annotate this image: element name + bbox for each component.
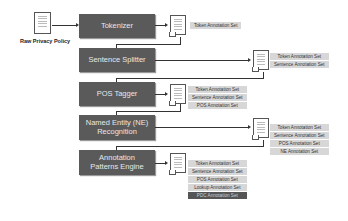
feedback-line [116,78,264,79]
connector [155,25,165,26]
pipeline-diagram: Raw Privacy Policy Tokenizer Token Annot… [0,0,348,221]
annotation-label: POS Annotation Set [188,176,247,183]
input-caption: Raw Privacy Policy [20,38,70,44]
output-document-icon [170,153,186,173]
annotation-label: Sentence Annotation Set [188,168,247,175]
stage-ne-recognition: Named Entity (NE) Recognition [79,115,155,140]
connector [155,60,248,61]
output-labels-sentence-splitter: Token Annotation Set Sentence Annotation… [270,53,329,68]
annotation-label: Token Annotation Set [188,86,247,93]
stage-sentence-splitter: Sentence Splitter [79,48,155,72]
feedback-line [263,140,264,147]
annotation-label: Token Annotation Set [190,22,241,29]
annotation-label: POS Annotation Set [188,102,247,109]
raw-policy-document-icon [34,12,51,34]
connector [155,127,248,128]
annotation-label: Sentence Annotation Set [270,61,329,68]
output-document-icon [170,15,186,35]
connector [155,94,165,95]
stage-annotation-patterns-engine: Annotation Patterns Engine [79,150,155,175]
feedback-line [116,44,180,45]
arrow-icon [248,58,251,62]
arrow-icon [165,92,168,96]
annotation-label: Lookup Annotation Set [188,184,247,191]
output-document-icon [253,50,269,70]
feedback-line [116,146,264,147]
annotation-label: POS Annotation Set [270,140,329,147]
output-labels-annotation-patterns: Token Annotation Set Sentence Annotation… [188,160,247,199]
feedback-line [180,104,181,112]
annotation-label: Sentence Annotation Set [188,94,247,101]
output-document-icon [253,118,269,138]
output-labels-pos-tagger: Token Annotation Set Sentence Annotation… [188,86,247,109]
stage-pos-tagger: POS Tagger [79,82,155,106]
feedback-line [263,72,264,79]
output-labels-tokenizer: Token Annotation Set [190,22,241,29]
annotation-label: Token Annotation Set [270,124,329,131]
annotation-label: Token Annotation Set [270,53,329,60]
annotation-label: Token Annotation Set [188,160,247,167]
feedback-line [180,37,181,45]
arrow-icon [248,125,251,129]
output-labels-ne-recognition: Token Annotation Set Sentence Annotation… [270,124,329,155]
input-connector [52,25,76,26]
arrow-icon [165,161,168,165]
annotation-label: NE Annotation Set [270,148,329,155]
annotation-label-final: PDC Annotation Set [188,192,247,199]
stage-tokenizer: Tokenizer [79,14,155,38]
feedback-line [116,111,180,112]
arrow-icon [165,23,168,27]
connector [155,163,165,164]
annotation-label: Sentence Annotation Set [270,132,329,139]
output-document-icon [170,84,186,104]
